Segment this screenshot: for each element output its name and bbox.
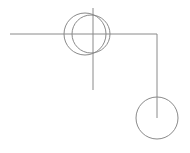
drawing-svg xyxy=(0,0,190,153)
canvas-background xyxy=(0,0,190,153)
drawing-canvas xyxy=(0,0,190,153)
